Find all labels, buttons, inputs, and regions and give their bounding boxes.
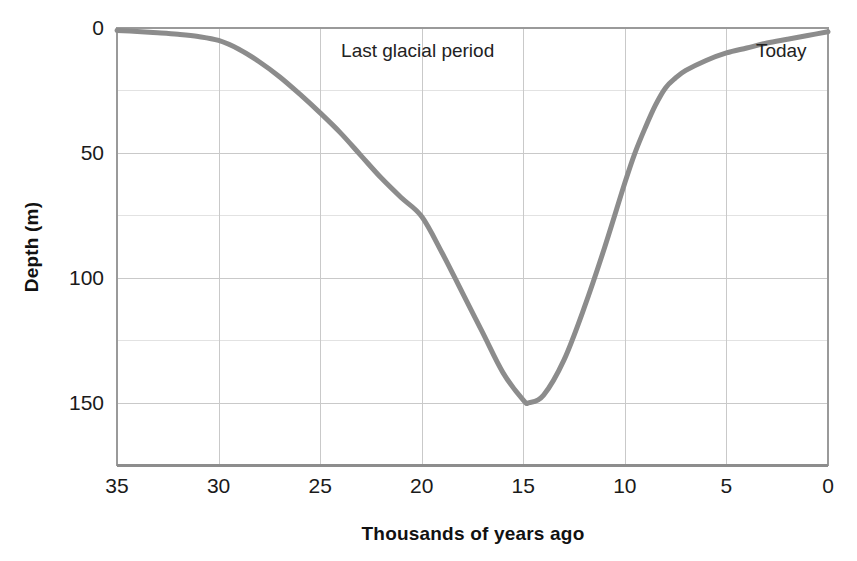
annotation-label-0: Last glacial period	[341, 40, 494, 61]
sea-level-depth-chart: 050100150 35302520151050 Last glacial pe…	[0, 0, 857, 561]
plot-background	[117, 28, 828, 465]
annotation-label-1: Today	[756, 40, 807, 61]
y-tick-label-150: 150	[69, 391, 104, 414]
x-tick-label-20: 20	[410, 474, 433, 497]
y-axis-tick-labels: 050100150	[69, 16, 104, 414]
y-axis-title: Depth (m)	[21, 202, 42, 292]
x-tick-label-30: 30	[207, 474, 230, 497]
x-axis-title: Thousands of years ago	[362, 523, 585, 544]
x-axis-tick-labels: 35302520151050	[105, 474, 834, 497]
x-tick-label-5: 5	[721, 474, 733, 497]
y-tick-label-100: 100	[69, 266, 104, 289]
x-tick-label-15: 15	[512, 474, 535, 497]
x-tick-label-35: 35	[105, 474, 128, 497]
x-tick-label-25: 25	[308, 474, 331, 497]
chart-container: 050100150 35302520151050 Last glacial pe…	[0, 0, 857, 561]
x-tick-label-0: 0	[822, 474, 834, 497]
y-tick-label-50: 50	[81, 141, 104, 164]
y-tick-label-0: 0	[92, 16, 104, 39]
x-tick-label-10: 10	[613, 474, 636, 497]
